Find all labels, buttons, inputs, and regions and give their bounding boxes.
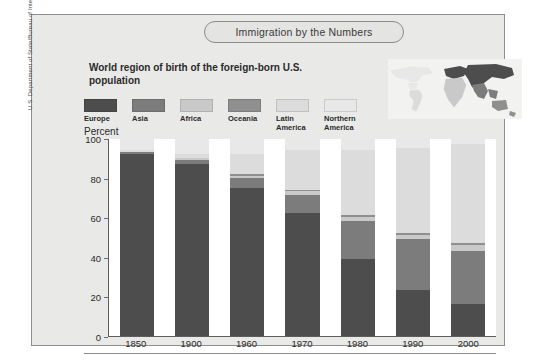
bar-segment: [341, 221, 375, 259]
bar-segment: [285, 195, 319, 213]
y-tick-label: 0: [96, 332, 101, 343]
x-tick-label: 1980: [330, 338, 385, 352]
legend-swatch: [132, 99, 165, 112]
legend-heading: World region of birth of the foreign-bor…: [89, 61, 329, 87]
bar-segment: [175, 138, 209, 154]
bar-group: [109, 139, 496, 336]
bar-segment: [396, 148, 430, 233]
bottom-rule: [84, 353, 496, 354]
bar-segment: [451, 251, 485, 304]
bar-segment: [285, 150, 319, 190]
legend-label: Northern America: [324, 114, 356, 132]
legend-item-latin-america[interactable]: Latin America: [276, 99, 324, 132]
x-tick-label: 1960: [219, 338, 274, 352]
legend-label: Europe: [84, 114, 110, 123]
bar-segment: [120, 154, 154, 336]
stacked-bar[interactable]: [175, 138, 209, 336]
x-tick-label: 2000: [441, 338, 496, 352]
stacked-bar[interactable]: [341, 138, 375, 336]
y-tick-label: 100: [85, 134, 101, 145]
stacked-bar[interactable]: [120, 138, 154, 336]
bar-segment: [396, 138, 430, 148]
y-tick-label: 60: [90, 213, 101, 224]
bar-segment: [341, 150, 375, 215]
legend-label: Asia: [132, 114, 148, 123]
bar-slot: [164, 139, 219, 336]
bar-segment: [341, 138, 375, 150]
bar-slot: [109, 139, 164, 336]
bar-slot: [220, 139, 275, 336]
legend: EuropeAsiaAfricaOceaniaLatin AmericaNort…: [84, 99, 384, 132]
bar-segment: [230, 188, 264, 337]
legend-item-oceania[interactable]: Oceania: [228, 99, 276, 123]
stacked-bar[interactable]: [285, 138, 319, 336]
stacked-bar[interactable]: [451, 138, 485, 336]
bar-segment: [230, 138, 264, 154]
bar-segment: [285, 213, 319, 336]
legend-swatch: [324, 99, 357, 112]
y-tick-label: 20: [90, 292, 101, 303]
x-tick-label: 1990: [385, 338, 440, 352]
legend-item-europe[interactable]: Europe: [84, 99, 132, 123]
y-tick-label: 40: [90, 252, 101, 263]
legend-item-asia[interactable]: Asia: [132, 99, 180, 123]
bar-slot: [441, 139, 496, 336]
bar-segment: [396, 239, 430, 290]
stacked-bar[interactable]: [396, 138, 430, 336]
stacked-bar[interactable]: [230, 138, 264, 336]
x-tick-label: 1970: [274, 338, 329, 352]
bar-slot: [275, 139, 330, 336]
legend-item-northern-america[interactable]: Northern America: [324, 99, 372, 132]
legend-label: Latin America: [276, 114, 306, 132]
legend-swatch: [180, 99, 213, 112]
plot-area: 020406080100: [84, 139, 496, 337]
legend-label: Africa: [180, 114, 201, 123]
bar-segment: [175, 164, 209, 336]
bar-segment: [396, 290, 430, 336]
legend-swatch: [276, 99, 309, 112]
x-axis: 1850190019601970198019902000: [108, 338, 496, 352]
world-map-icon: [388, 59, 522, 119]
y-axis: 020406080100: [84, 139, 104, 337]
bar-segment: [451, 304, 485, 336]
plot-canvas: [108, 139, 496, 337]
x-tick-label: 1850: [108, 338, 163, 352]
bar-slot: [385, 139, 440, 336]
bar-slot: [330, 139, 385, 336]
bar-segment: [451, 144, 485, 243]
x-tick-label: 1900: [163, 338, 218, 352]
y-tick-label: 80: [90, 173, 101, 184]
chart-frame: Immigration by the Numbers World region …: [31, 14, 505, 346]
bar-segment: [120, 138, 154, 150]
bar-segment: [285, 138, 319, 150]
legend-label: Oceania: [228, 114, 257, 123]
bar-segment: [341, 259, 375, 336]
title-banner: Immigration by the Numbers: [204, 21, 404, 43]
legend-swatch: [84, 99, 117, 112]
legend-swatch: [228, 99, 261, 112]
source-credit: U.S. Department of State/Bureau of Inter…: [27, 0, 33, 110]
bar-segment: [230, 178, 264, 188]
bar-segment: [230, 154, 264, 174]
legend-item-africa[interactable]: Africa: [180, 99, 228, 123]
page-title: Immigration by the Numbers: [235, 26, 372, 38]
